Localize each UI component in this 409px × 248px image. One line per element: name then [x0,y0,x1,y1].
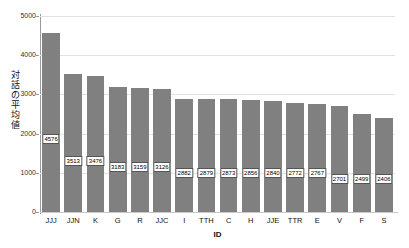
y-axis-tick-labels: 010002000300040005000 [0,16,36,212]
bar[interactable] [198,99,216,212]
x-tick-label: C [226,216,231,225]
x-tick-label: TTH [199,216,214,225]
bar-value-label: 2772 [286,168,303,178]
y-tick-label: 5000 [2,12,36,19]
bar-value-label: 2406 [375,174,392,184]
bar-value-label: 2879 [198,168,215,178]
bar[interactable] [308,104,326,212]
bar-value-label: 3126 [153,162,170,172]
bar[interactable] [109,87,127,212]
bar-value-label: 3476 [87,156,104,166]
x-tick-label: G [115,216,121,225]
x-tick-label: JJJ [45,216,56,225]
x-tick-label: I [183,216,185,225]
y-tick-mark [36,212,39,213]
y-tick-label: 0 [2,208,36,215]
gridline [40,16,395,17]
bar[interactable] [220,99,238,212]
bar-value-label: 3159 [131,162,148,172]
x-tick-label: TTR [288,216,303,225]
bar[interactable] [353,114,371,212]
bar-value-label: 2856 [242,168,259,178]
x-axis-tick-labels: JJJJJNKGRJJCITTHCHJJETTREVFS [40,214,395,228]
x-tick-label: H [248,216,253,225]
bar[interactable] [87,76,105,212]
bar-value-label: 3513 [65,156,82,166]
bar-value-label: 2873 [220,168,237,178]
y-tick-mark [36,55,39,56]
x-axis-line [40,212,398,213]
x-tick-label: R [137,216,142,225]
x-tick-label: JJC [156,216,169,225]
bar[interactable] [331,106,349,212]
bar[interactable] [175,99,193,212]
y-tick-mark [36,134,39,135]
x-tick-label: JJE [267,216,280,225]
bar-value-label: 2499 [353,174,370,184]
bar[interactable] [42,33,60,212]
bar-chart: 対話の平均値 010002000300040005000 45763513347… [0,0,409,248]
plot-area: 4576351334763183315931262882287928732856… [40,16,395,212]
y-tick-label: 4000 [2,51,36,58]
x-axis-title: ID [40,230,395,239]
y-tick-label: 2000 [2,130,36,137]
bar[interactable] [153,89,171,212]
bar-value-label: 2767 [309,168,326,178]
bar-value-label: 2882 [176,168,193,178]
bar-value-label: 2701 [331,174,348,184]
bar[interactable] [286,103,304,212]
bar-value-label: 2840 [264,168,281,178]
y-tick-label: 1000 [2,169,36,176]
y-tick-mark [36,173,39,174]
bar[interactable] [64,74,82,212]
gridline [40,55,395,56]
bar[interactable] [242,100,260,212]
bar[interactable] [131,88,149,212]
x-tick-label: V [337,216,342,225]
bar[interactable] [264,101,282,212]
x-tick-label: S [381,216,386,225]
y-tick-mark [36,16,39,17]
bar-value-label: 3183 [109,162,126,172]
y-tick-label: 3000 [2,90,36,97]
y-tick-mark [36,94,39,95]
x-tick-label: K [93,216,98,225]
bar-value-label: 4576 [42,134,59,144]
bar[interactable] [375,118,393,212]
x-tick-label: E [315,216,320,225]
x-tick-label: JJN [67,216,80,225]
x-tick-label: F [359,216,364,225]
